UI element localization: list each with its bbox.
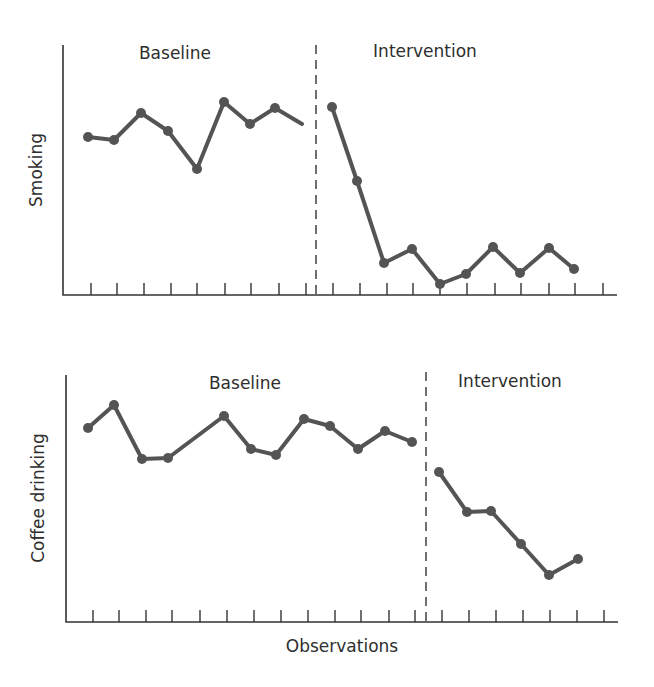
coffee-y-axis-label: Coffee drinking [28,433,48,563]
smoking-intervention-series [327,102,579,289]
x-axis-label: Observations [286,636,399,656]
smoking-panel: Baseline Intervention Smoking [26,41,617,295]
smoking-axes [63,45,617,295]
smoking-baseline-series [83,97,302,174]
figure: Baseline Intervention Smoking [0,0,654,687]
coffee-intervention-series [434,467,583,580]
smoking-baseline-label: Baseline [139,43,211,63]
coffee-baseline-series [83,400,417,464]
smoking-intervention-label: Intervention [373,41,477,61]
smoking-x-ticks [91,283,603,295]
coffee-x-ticks [93,610,604,622]
coffee-baseline-label: Baseline [209,373,281,393]
smoking-y-axis-label: Smoking [26,133,46,207]
coffee-axes [66,375,618,622]
coffee-panel: Baseline Intervention Coffee drinking [28,371,618,656]
coffee-intervention-label: Intervention [458,371,562,391]
